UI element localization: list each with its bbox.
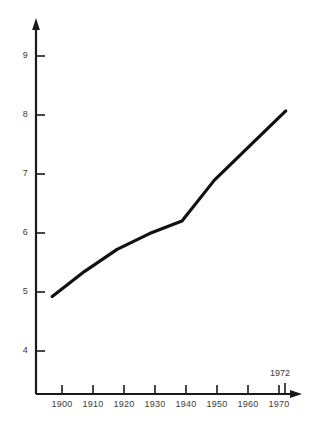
x-tick-label-1910: 1910 (76, 399, 110, 409)
x-tick-label-1950: 1950 (200, 399, 234, 409)
x-tick-label-1920: 1920 (107, 399, 141, 409)
chart-canvas (0, 0, 314, 424)
annotation-1972: 1972 (263, 368, 297, 378)
x-tick-label-1970: 1970 (262, 399, 296, 409)
y-tick-label-8: 8 (14, 109, 28, 119)
line-chart: 9 8 7 6 5 4 1900 1910 1920 1930 1940 195… (0, 0, 314, 424)
y-axis-ticks (36, 56, 45, 351)
y-tick-label-9: 9 (14, 50, 28, 60)
y-tick-label-7: 7 (14, 168, 28, 178)
x-tick-label-1960: 1960 (231, 399, 265, 409)
data-series-line (52, 111, 286, 297)
y-tick-label-4: 4 (14, 345, 28, 355)
x-axis-ticks (62, 383, 285, 394)
y-axis-arrow-icon (32, 18, 40, 30)
y-tick-label-6: 6 (14, 227, 28, 237)
x-tick-label-1930: 1930 (138, 399, 172, 409)
y-tick-label-5: 5 (14, 286, 28, 296)
x-tick-label-1900: 1900 (45, 399, 79, 409)
x-axis-arrow-icon (290, 390, 302, 398)
x-tick-label-1940: 1940 (169, 399, 203, 409)
